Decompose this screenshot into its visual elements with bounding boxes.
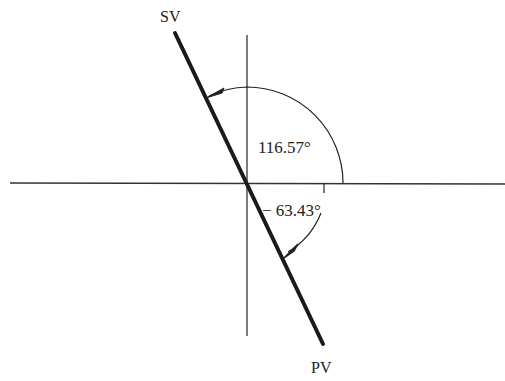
upper-angle-arc xyxy=(209,87,343,183)
sv-label: SV xyxy=(160,8,181,25)
lower-angle-label: − 63.43° xyxy=(262,201,321,220)
pv-label: PV xyxy=(311,359,332,376)
upper-angle-label: 116.57° xyxy=(258,138,311,157)
upper-arrowhead-icon xyxy=(206,88,224,98)
lower-arrowhead-icon xyxy=(284,244,298,258)
phasor-diagram: SV PV 116.57° − 63.43° xyxy=(0,0,505,381)
horizontal-axis xyxy=(10,183,505,184)
sv-pv-line xyxy=(175,33,323,344)
